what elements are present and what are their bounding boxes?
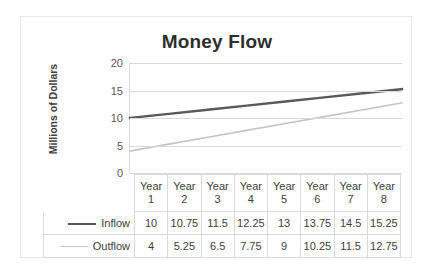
legend-series-label: Inflow [101, 217, 130, 229]
category-header-cell: Year2 [168, 175, 201, 212]
category-header-cell: Year7 [334, 175, 367, 212]
legend-line-swatch-icon [68, 223, 96, 225]
chart-data-table: Year1Year2Year3Year4Year5Year6Year7Year8… [43, 174, 401, 258]
category-header-line1: Year [368, 180, 400, 193]
y-tick-label: 10 [97, 112, 123, 124]
category-header-cell: Year3 [201, 175, 234, 212]
data-cell: 11.5 [201, 212, 234, 235]
category-header-line2: 8 [368, 193, 400, 206]
category-header-line2: 1 [135, 193, 167, 206]
plot-wrapper: 05101520 [129, 63, 401, 173]
y-axis-title: Millions of Dollars [47, 54, 59, 164]
data-cell: 12.75 [367, 235, 400, 258]
gridline [130, 118, 402, 119]
category-header-line1: Year [135, 180, 167, 193]
category-header-line1: Year [202, 180, 234, 193]
category-header-cell: Year4 [234, 175, 267, 212]
data-cell: 12.25 [234, 212, 267, 235]
y-tick-label: 5 [97, 140, 123, 152]
data-cell: 5.25 [168, 235, 201, 258]
category-header-line2: 7 [335, 193, 367, 206]
gridline [130, 63, 402, 64]
table-row-categories: Year1Year2Year3Year4Year5Year6Year7Year8 [44, 175, 401, 212]
series-line-inflow [130, 89, 402, 118]
data-cell: 11.5 [334, 235, 367, 258]
category-header-line2: 6 [301, 193, 333, 206]
data-cell: 13.75 [301, 212, 334, 235]
data-table-header: Year1Year2Year3Year4Year5Year6Year7Year8 [44, 175, 401, 212]
data-cell: 15.25 [367, 212, 400, 235]
data-cell: 7.75 [234, 235, 267, 258]
legend-line-swatch-icon [60, 246, 88, 247]
data-cell: 13 [268, 212, 301, 235]
category-header-cell: Year1 [135, 175, 168, 212]
data-cell: 10.25 [301, 235, 334, 258]
chart-title: Money Flow [21, 31, 413, 53]
y-axis-tick-labels: 05101520 [97, 63, 123, 173]
legend-entry-inflow: Inflow [44, 212, 135, 235]
legend-series-label: Outflow [93, 240, 130, 252]
data-cell: 10.75 [168, 212, 201, 235]
category-header-cell: Year8 [367, 175, 400, 212]
category-header-line2: 5 [268, 193, 300, 206]
legend-header-blank [44, 175, 135, 212]
category-header-line1: Year [268, 180, 300, 193]
table-row: Inflow1010.7511.512.251313.7514.515.25 [44, 212, 401, 235]
data-cell: 9 [268, 235, 301, 258]
category-header-cell: Year6 [301, 175, 334, 212]
data-cell: 6.5 [201, 235, 234, 258]
category-header-line2: 2 [168, 193, 200, 206]
category-header-cell: Year5 [268, 175, 301, 212]
y-tick-label: 15 [97, 85, 123, 97]
data-cell: 4 [135, 235, 168, 258]
gridline [130, 146, 402, 147]
data-table-body: Inflow1010.7511.512.251313.7514.515.25Ou… [44, 212, 401, 258]
legend-entry-outflow: Outflow [44, 235, 135, 258]
category-header-line1: Year [235, 180, 267, 193]
category-header-line1: Year [335, 180, 367, 193]
category-header-line2: 4 [235, 193, 267, 206]
y-tick-label: 20 [97, 57, 123, 69]
category-header-line1: Year [168, 180, 200, 193]
series-line-outflow [130, 103, 402, 151]
data-cell: 10 [135, 212, 168, 235]
plot-area [129, 63, 401, 173]
chart-container: Money Flow Millions of Dollars 05101520 … [20, 16, 412, 258]
category-header-line1: Year [301, 180, 333, 193]
data-cell: 14.5 [334, 212, 367, 235]
table-row: Outflow45.256.57.75910.2511.512.75 [44, 235, 401, 258]
gridline [130, 91, 402, 92]
category-header-line2: 3 [202, 193, 234, 206]
